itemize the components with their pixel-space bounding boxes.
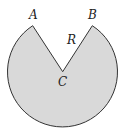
label-a: A xyxy=(28,8,38,22)
label-b: B xyxy=(87,8,97,22)
label-c: C xyxy=(58,75,67,89)
sector-diagram: A B R C xyxy=(0,0,125,135)
label-r: R xyxy=(66,33,76,47)
